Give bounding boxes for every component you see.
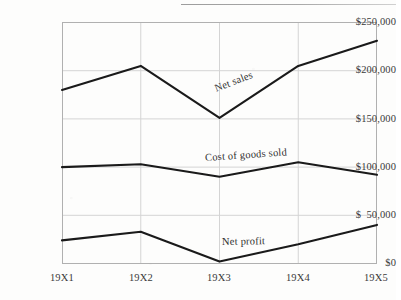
x-tick-label-19X4: 19X4 [270, 272, 326, 283]
vertical-gridlines [141, 23, 299, 264]
x-tick-label-19X3: 19X3 [191, 272, 247, 283]
y-tick-label-200000: $200,000 [338, 64, 396, 75]
y-tick-label-250000: $250,000 [338, 16, 396, 27]
x-tick-label-19X5: 19X5 [348, 272, 401, 283]
x-tick-label-19X2: 19X2 [113, 272, 169, 283]
y-tick-label-100000: $100,000 [338, 161, 396, 172]
y-tick-label-50000: $ 50,000 [338, 209, 396, 220]
x-tick-label-19X1: 19X1 [34, 272, 90, 283]
y-tick-label-150000: $150,000 [338, 113, 396, 124]
y-tick-label-0: $0 [338, 257, 396, 268]
series-label-net-profit: Net profit [222, 235, 265, 247]
